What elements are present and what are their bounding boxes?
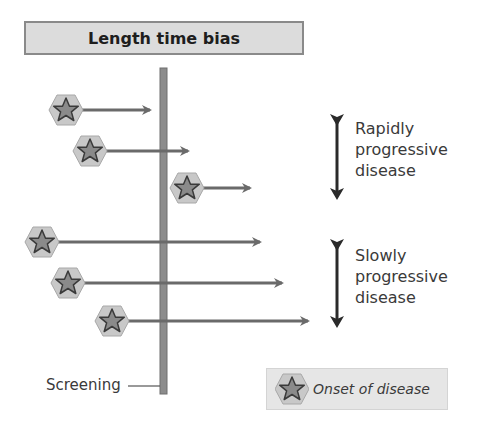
rapid-label-line-1: Rapidly xyxy=(355,118,448,139)
rapid-label-line-3: disease xyxy=(355,160,448,181)
slow-label-line-3: disease xyxy=(355,287,448,308)
screening-line xyxy=(160,68,167,394)
slow-label-line-2: progressive xyxy=(355,266,448,287)
legend: Onset of disease xyxy=(266,368,448,410)
rapid-label-line-2: progressive xyxy=(355,139,448,160)
star-hexagon-icon xyxy=(275,373,309,405)
diagram-canvas xyxy=(0,0,478,431)
slow-group-label: Slowly progressive disease xyxy=(355,245,448,308)
legend-label: Onset of disease xyxy=(313,381,430,397)
star-hexagon-icon xyxy=(25,227,59,257)
onset-slow-1 xyxy=(25,227,260,257)
star-hexagon-icon xyxy=(95,306,129,336)
star-hexagon-icon xyxy=(51,268,85,298)
star-hexagon-icon xyxy=(170,173,204,203)
rapid-group-label: Rapidly progressive disease xyxy=(355,118,448,181)
onset-rapid-1 xyxy=(49,95,150,125)
slow-label-line-1: Slowly xyxy=(355,245,448,266)
onset-rapid-3 xyxy=(170,173,250,203)
onset-slow-3 xyxy=(95,306,308,336)
onset-rapid-2 xyxy=(73,136,188,166)
star-hexagon-icon xyxy=(73,136,107,166)
screening-label: Screening xyxy=(46,375,121,396)
star-hexagon-icon xyxy=(49,95,83,125)
